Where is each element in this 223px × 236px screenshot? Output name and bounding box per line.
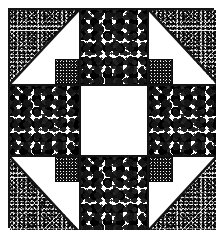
patch-bottom-left bbox=[10, 155, 79, 230]
corner-square-top-left-unit bbox=[55, 59, 79, 84]
patch-top-center bbox=[79, 10, 147, 84]
patch-top-left bbox=[10, 10, 79, 84]
quilt-block-figure bbox=[0, 0, 223, 236]
patch-middle-right bbox=[147, 84, 216, 155]
corner-square-top-right-unit bbox=[149, 59, 173, 84]
corner-square-bottom-left-unit bbox=[55, 157, 79, 182]
corner-square-bottom-right-unit bbox=[149, 157, 173, 182]
patch-middle-left bbox=[10, 84, 79, 155]
quilt-block-outline bbox=[8, 8, 214, 228]
patch-center bbox=[79, 84, 147, 155]
patch-bottom-right bbox=[147, 155, 216, 230]
patch-top-right bbox=[147, 10, 216, 84]
patch-bottom-center bbox=[79, 155, 147, 230]
